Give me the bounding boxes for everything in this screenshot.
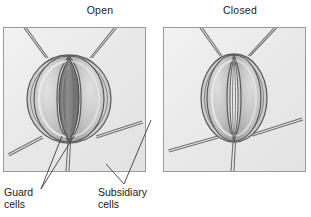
label-subsidiary-cells: Subsidiary cells bbox=[98, 186, 147, 210]
panel-closed-stoma bbox=[163, 27, 306, 172]
stomata-diagram-figure: Open Closed bbox=[0, 0, 311, 217]
panel-open-stoma bbox=[3, 27, 146, 172]
panel-title-open: Open bbox=[50, 4, 150, 16]
closed-stoma-illustration bbox=[164, 28, 305, 171]
label-guard-cells: Guard cells bbox=[4, 186, 33, 210]
open-stoma-illustration bbox=[4, 28, 145, 171]
panel-title-closed: Closed bbox=[190, 4, 290, 16]
